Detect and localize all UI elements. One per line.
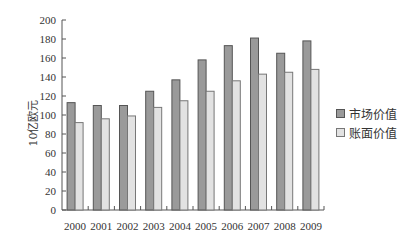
y-tick-label: 200	[40, 14, 57, 26]
legend-swatch-market-value	[336, 109, 345, 118]
x-tick-label: 2009	[300, 220, 323, 232]
bar-market-value-2001	[93, 106, 101, 211]
y-tick-label: 180	[40, 33, 57, 45]
legend-item-market-value: 市场价值	[336, 104, 397, 123]
bar-market-value-2006	[224, 46, 232, 210]
y-tick-label: 20	[45, 185, 57, 197]
bar-market-value-2004	[172, 80, 180, 210]
bar-market-value-2003	[146, 91, 154, 210]
bar-book-value-2002	[128, 116, 136, 210]
bar-book-value-2000	[75, 123, 83, 210]
legend: 市场价值 账面价值	[336, 104, 397, 142]
y-axis-label: 10亿欧元	[24, 93, 40, 153]
x-tick-label: 2007	[248, 220, 271, 232]
bar-market-value-2002	[120, 106, 128, 211]
legend-item-book-value: 账面价值	[336, 123, 397, 142]
y-tick-label: 0	[51, 204, 57, 216]
y-axis: 020406080100120140160180200	[40, 14, 67, 216]
bar-book-value-2006	[232, 81, 240, 210]
bars	[67, 38, 319, 210]
bar-market-value-2009	[303, 41, 311, 210]
bar-market-value-2000	[67, 103, 75, 210]
bar-book-value-2003	[154, 107, 162, 210]
y-tick-label: 40	[45, 166, 57, 178]
y-tick-label: 120	[40, 90, 57, 102]
y-tick-label: 140	[40, 71, 57, 83]
legend-label-book-value: 账面价值	[349, 124, 397, 141]
bar-book-value-2005	[206, 91, 214, 210]
bar-market-value-2007	[251, 38, 259, 210]
bar-book-value-2008	[285, 72, 293, 210]
y-tick-label: 60	[45, 147, 57, 159]
legend-swatch-book-value	[336, 128, 345, 137]
y-tick-label: 80	[45, 128, 57, 140]
x-tick-label: 2006	[221, 220, 244, 232]
bar-book-value-2001	[101, 119, 109, 210]
x-tick-label: 2004	[169, 220, 192, 232]
bar-market-value-2008	[277, 53, 285, 210]
bar-book-value-2009	[311, 69, 319, 210]
x-tick-label: 2001	[90, 220, 112, 232]
x-tick-label: 2002	[117, 220, 139, 232]
bar-market-value-2005	[198, 60, 206, 210]
x-tick-label: 2005	[195, 220, 218, 232]
x-tick-label: 2008	[274, 220, 297, 232]
bar-book-value-2004	[180, 101, 188, 210]
y-tick-label: 160	[40, 52, 57, 64]
bar-book-value-2007	[259, 74, 267, 210]
legend-label-market-value: 市场价值	[349, 105, 397, 122]
y-tick-label: 100	[40, 109, 57, 121]
x-tick-label: 2000	[64, 220, 87, 232]
x-tick-label: 2003	[143, 220, 166, 232]
